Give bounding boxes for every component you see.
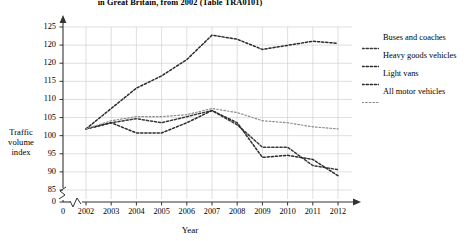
y-tick-label: 105: [30, 113, 56, 122]
legend-label: Buses and coaches: [383, 33, 446, 42]
y-tick-label: 95: [30, 149, 56, 158]
y-tick-label: 125: [30, 22, 56, 31]
legend-swatch-icon: [362, 90, 379, 93]
legend-item: Buses and coaches: [362, 28, 475, 46]
y-tick-label: 85: [30, 185, 56, 194]
y-tick-label-zero: 0: [30, 197, 56, 206]
legend-swatch-icon: [362, 54, 379, 57]
y-tick-label: 90: [30, 167, 56, 176]
y-tick-label: 110: [30, 94, 56, 103]
x-axis-title: Year: [150, 225, 230, 235]
y-tick-label: 120: [30, 40, 56, 49]
x-tick-label: 2012: [322, 207, 354, 216]
chart-figure: in Great Britain, from 2002 (Table TRA01…: [0, 0, 475, 241]
y-tick-label: 120: [30, 58, 56, 67]
legend-swatch-icon: [362, 36, 379, 39]
legend-label: Light vans: [383, 69, 419, 78]
legend-swatch-icon: [362, 72, 379, 75]
y-tick-label: 115: [30, 76, 56, 85]
legend-label: Heavy goods vehicles: [383, 51, 457, 60]
y-tick-label: 100: [30, 131, 56, 140]
chart-legend: Buses and coachesHeavy goods vehiclesLig…: [362, 28, 475, 100]
legend-label: All motor vehicles: [383, 87, 445, 96]
